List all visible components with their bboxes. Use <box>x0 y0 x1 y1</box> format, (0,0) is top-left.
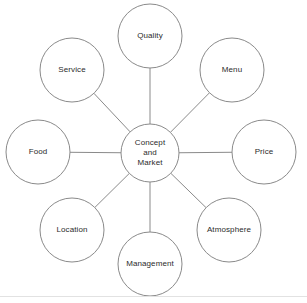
connector-service <box>94 93 130 132</box>
node-circle-price[interactable] <box>232 120 296 184</box>
node-circle-center[interactable] <box>121 124 179 182</box>
connector-location <box>95 173 130 207</box>
connector-atmosphere <box>171 173 206 207</box>
footer-divider <box>0 296 307 297</box>
node-circle-atmosphere[interactable] <box>197 198 261 262</box>
node-circle-menu[interactable] <box>200 38 264 102</box>
diagram-canvas <box>0 0 307 303</box>
connector-menu <box>170 93 209 133</box>
node-circle-quality[interactable] <box>118 4 182 68</box>
node-circle-location[interactable] <box>40 198 104 262</box>
node-circles <box>6 4 296 296</box>
node-circle-food[interactable] <box>6 120 70 184</box>
concept-and-market-diagram: QualityMenuPriceAtmosphereManagementLoca… <box>0 0 307 303</box>
node-circle-service[interactable] <box>40 38 104 102</box>
node-circle-management[interactable] <box>118 232 182 296</box>
